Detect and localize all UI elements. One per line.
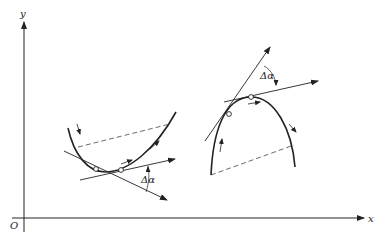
right-chord — [211, 145, 294, 175]
left-curve — [68, 112, 176, 172]
right-direction-arrow-2 — [248, 102, 260, 104]
left-point-2 — [119, 168, 124, 173]
x-axis-label: x — [368, 213, 374, 224]
origin-label: O — [10, 220, 18, 231]
right-angle-label: Δα — [259, 70, 274, 81]
right-direction-arrow-1 — [220, 139, 222, 152]
curvature-diagram: y x O Δα — [0, 0, 383, 238]
right-point-1 — [227, 112, 232, 117]
left-curve-group: Δα — [64, 112, 176, 200]
right-point-2 — [249, 95, 254, 100]
right-tangent-2 — [224, 81, 318, 102]
y-axis-label: y — [19, 8, 26, 19]
left-angle-label: Δα — [140, 174, 155, 185]
left-point-1 — [94, 167, 99, 172]
figure-canvas: y x O Δα — [0, 0, 383, 238]
left-direction-arrow-1 — [77, 124, 80, 134]
right-curve — [211, 97, 295, 175]
axes: y x O — [10, 8, 374, 232]
right-curve-group: Δα — [205, 47, 318, 175]
right-direction-arrow-3 — [289, 124, 296, 132]
